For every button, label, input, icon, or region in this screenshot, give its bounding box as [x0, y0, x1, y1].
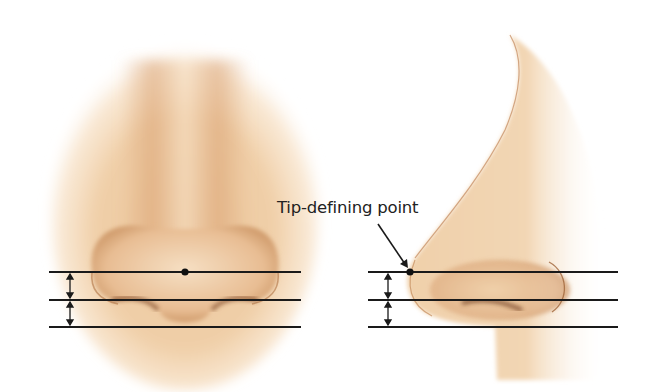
frontal-tip-point — [181, 268, 188, 275]
tip-defining-point-label: Tip-defining point — [277, 198, 418, 217]
annotation-leader-arrow — [378, 224, 408, 268]
lateral-tip-point — [406, 268, 413, 275]
nose-diagram — [0, 0, 657, 392]
lateral-nose-illustration — [407, 35, 605, 380]
